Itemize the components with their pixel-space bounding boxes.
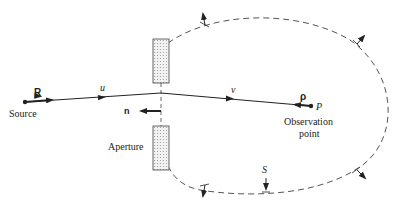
aperture-screen-top: [153, 39, 169, 83]
observation-point: [309, 104, 313, 108]
label-u: u: [100, 82, 105, 93]
closed-surface-s: [168, 18, 388, 194]
r-vector-arrow: [25, 100, 52, 102]
label-surface-s: S: [262, 164, 267, 175]
label-r-vector: R: [34, 87, 42, 98]
label-source: Source: [9, 108, 37, 119]
label-observation-line1: Observation: [284, 116, 333, 127]
label-n: n: [124, 106, 130, 116]
ray-v: [161, 93, 311, 106]
v-arrowhead-main: [226, 96, 234, 102]
aperture-screen-bottom: [153, 126, 169, 170]
label-p: P: [315, 101, 322, 112]
label-v: v: [231, 84, 236, 95]
label-aperture: Aperture: [108, 141, 144, 152]
rho-vector-arrow: [295, 105, 311, 106]
diffraction-diagram: R Source u n Aperture v ρ P Observation …: [0, 0, 405, 209]
outward-normals: [200, 14, 365, 196]
u-arrowhead: [98, 95, 106, 101]
label-observation-line2: point: [299, 128, 320, 139]
label-rho: ρ: [300, 91, 306, 102]
